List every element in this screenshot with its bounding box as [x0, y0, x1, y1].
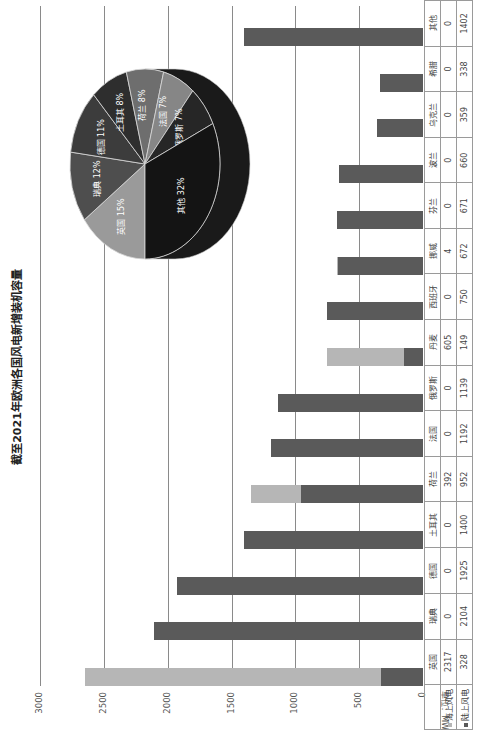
- table-cell: 0: [441, 274, 457, 320]
- table-cell: 英国: [425, 639, 441, 685]
- bar-offshore: [85, 668, 381, 686]
- bar-onshore: [377, 119, 423, 137]
- bar-onshore: [278, 394, 423, 412]
- table-row-onshore: 陆上风电328210419251400952119211391497506726…: [457, 1, 473, 730]
- table-cell: 0: [441, 138, 457, 183]
- legend-onshore-label: 陆上风电: [461, 689, 470, 721]
- bar-onshore: [244, 28, 423, 46]
- table-cell: 波兰: [425, 138, 441, 183]
- table-cell: 0: [441, 502, 457, 548]
- pie-slice-label: 英国 15%: [116, 198, 126, 235]
- table-cell: 瑞典: [425, 593, 441, 639]
- y-tick-label: 500: [353, 692, 363, 726]
- y-tick-label: 1000: [289, 692, 299, 726]
- table-cell: 西班牙: [425, 274, 441, 320]
- table-cell: 德国: [425, 548, 441, 594]
- table-cell: 2104: [457, 593, 473, 639]
- table-cell: 俄罗斯: [425, 365, 441, 411]
- table-cell: 4: [441, 228, 457, 273]
- table-cell: 乌克兰: [425, 92, 441, 138]
- pie-slice-label: 土耳其 8%: [115, 92, 125, 132]
- pie-chart-inset: 英国 15%瑞典 12%德国 11%土耳其 8%荷兰 8%法国 7%俄罗斯 7%…: [55, 24, 255, 264]
- pie-slice-label: 荷兰 8%: [137, 89, 147, 121]
- y-tick-label: 1500: [226, 692, 236, 726]
- y-tick-label: 3000: [34, 692, 44, 726]
- table-row-offshore: 海上风电2317000392006050400000: [441, 1, 457, 730]
- table-cell: 952: [457, 457, 473, 502]
- table-cell: 丹麦: [425, 320, 441, 365]
- table-cell: 605: [441, 320, 457, 365]
- pie-slice-label: 其他 32%: [176, 177, 186, 214]
- bar-onshore: [381, 668, 423, 686]
- legend-offshore-swatch-icon: [448, 723, 452, 727]
- bar-onshore: [339, 165, 423, 183]
- table-cell: 希腊: [425, 46, 441, 91]
- bar-onshore: [301, 485, 423, 503]
- table-cell: 672: [457, 228, 473, 273]
- bar-onshore: [271, 439, 423, 457]
- table-cell: 芬兰: [425, 183, 441, 228]
- table-cell: 1400: [457, 502, 473, 548]
- bar-onshore: [404, 348, 423, 366]
- table-cell: 359: [457, 92, 473, 138]
- table-cell: 1192: [457, 411, 473, 457]
- legend-onshore-swatch-icon: [464, 723, 468, 727]
- table-cell: 1139: [457, 365, 473, 411]
- table-cell: 0: [441, 1, 457, 47]
- y-tick-label: 2500: [98, 692, 108, 726]
- pie-slice-label: 德国 11%: [96, 119, 106, 156]
- chart-title: 截至2021年欧洲各国风电新增装机容量: [8, 0, 24, 734]
- table-cell: 0: [441, 92, 457, 138]
- legend-offshore-label: 海上风电: [445, 689, 454, 721]
- bar-onshore: [337, 257, 423, 275]
- table-cell: 0: [441, 411, 457, 457]
- table-cell: 1402: [457, 1, 473, 47]
- table-cell: 0: [441, 365, 457, 411]
- chart-canvas: 截至2021年欧洲各国风电新增装机容量 单位：MW 05001000150020…: [0, 0, 477, 734]
- table-cell: 1925: [457, 548, 473, 594]
- bar-onshore: [154, 622, 423, 640]
- table-cell: 0: [441, 548, 457, 594]
- bar-onshore: [177, 577, 423, 595]
- table-cell: 0: [441, 183, 457, 228]
- table-cell: 328: [457, 639, 473, 685]
- table-cell: 0: [441, 46, 457, 91]
- table-cell: 750: [457, 274, 473, 320]
- table-cell: 荷兰: [425, 457, 441, 502]
- data-table: 英国瑞典德国土耳其荷兰法国俄罗斯丹麦西班牙挪威芬兰波兰乌克兰希腊其他海上风电23…: [424, 0, 473, 730]
- bar-onshore: [244, 531, 423, 549]
- bar-offshore: [251, 485, 301, 503]
- table-cell: 671: [457, 183, 473, 228]
- gridline: [40, 6, 41, 686]
- table-cell: 土耳其: [425, 502, 441, 548]
- table-cell: 其他: [425, 1, 441, 47]
- table-header-row: 英国瑞典德国土耳其荷兰法国俄罗斯丹麦西班牙挪威芬兰波兰乌克兰希腊其他: [425, 1, 441, 730]
- pie-slice-label: 瑞典 12%: [92, 160, 102, 197]
- table-cell: 660: [457, 138, 473, 183]
- table-cell: 法国: [425, 411, 441, 457]
- bar-onshore: [380, 74, 423, 92]
- table-cell: 2317: [441, 639, 457, 685]
- table-cell: 挪威: [425, 228, 441, 273]
- table-cell: 0: [441, 593, 457, 639]
- bar-offshore: [327, 348, 404, 366]
- table-cell: 149: [457, 320, 473, 365]
- pie-slice-label: 法国 7%: [158, 96, 168, 128]
- bar-onshore: [327, 302, 423, 320]
- table-cell: 338: [457, 46, 473, 91]
- y-tick-label: 2000: [162, 692, 172, 726]
- table-cell: 392: [441, 457, 457, 502]
- bar-onshore: [337, 211, 423, 229]
- bar-offshore: [337, 257, 338, 275]
